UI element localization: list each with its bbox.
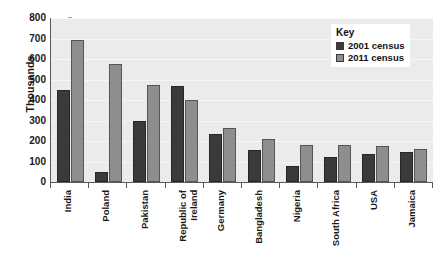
bar[interactable] xyxy=(362,154,375,182)
legend-label: 2011 census xyxy=(348,52,404,63)
bar-group xyxy=(95,18,122,182)
bar[interactable] xyxy=(223,128,236,182)
x-tick-mark xyxy=(394,183,395,188)
x-tick-mark xyxy=(432,183,433,188)
legend-swatch-icon xyxy=(336,42,344,50)
x-tick-label: Bangladesh xyxy=(254,190,265,244)
legend-items: 2001 census2011 census xyxy=(336,40,405,63)
legend-item[interactable]: 2011 census xyxy=(336,52,405,63)
bar-group xyxy=(57,18,84,182)
x-tick-label: USA xyxy=(369,190,380,210)
legend-item[interactable]: 2001 census xyxy=(336,40,405,51)
x-tick-label: India xyxy=(63,190,74,212)
x-tick-mark xyxy=(50,183,51,188)
bar[interactable] xyxy=(300,145,313,182)
x-tick-label: Republic of Ireland xyxy=(178,190,199,242)
x-tick-label: South Africa xyxy=(331,190,342,246)
y-tick-label: 200 xyxy=(22,136,46,146)
y-tick-label: 100 xyxy=(22,157,46,167)
x-tick-mark xyxy=(88,183,89,188)
x-tick-mark xyxy=(126,183,127,188)
x-tick-mark xyxy=(241,183,242,188)
bar-chart: Thousands 0100200300400500600700800 Indi… xyxy=(0,0,446,265)
x-tick-mark xyxy=(317,183,318,188)
y-tick-label: 800 xyxy=(22,13,46,23)
y-tick-label: 0 xyxy=(22,177,46,187)
bar-group xyxy=(133,18,160,182)
x-tick-label: Jamaica xyxy=(407,190,418,228)
bar-group xyxy=(171,18,198,182)
bar[interactable] xyxy=(414,149,427,182)
y-tick-label: 600 xyxy=(22,54,46,64)
legend-title: Key xyxy=(336,27,405,38)
y-axis-tick-labels: 0100200300400500600700800 xyxy=(22,18,46,182)
bar[interactable] xyxy=(147,85,160,182)
x-tick-mark xyxy=(165,183,166,188)
x-axis-ticks xyxy=(50,183,432,189)
bar[interactable] xyxy=(185,100,198,182)
x-tick-mark xyxy=(203,183,204,188)
x-tick-label: Poland xyxy=(101,190,112,222)
bar[interactable] xyxy=(71,40,84,182)
x-axis-tick-labels: IndiaPolandPakistanRepublic of IrelandGe… xyxy=(50,190,432,265)
y-tick-label: 400 xyxy=(22,95,46,105)
bar[interactable] xyxy=(262,139,275,182)
bar[interactable] xyxy=(338,145,351,182)
bar[interactable] xyxy=(109,64,122,182)
bar[interactable] xyxy=(376,146,389,182)
x-tick-mark xyxy=(356,183,357,188)
x-tick-mark xyxy=(279,183,280,188)
x-tick-label: Germany xyxy=(216,190,227,231)
bar[interactable] xyxy=(286,166,299,182)
bar[interactable] xyxy=(171,86,184,182)
x-tick-label: Nigeria xyxy=(292,190,303,222)
bar[interactable] xyxy=(324,157,337,182)
bar-group xyxy=(209,18,236,182)
legend-swatch-icon xyxy=(336,54,344,62)
bar-group xyxy=(286,18,313,182)
bar[interactable] xyxy=(209,134,222,182)
legend: Key 2001 census2011 census xyxy=(331,24,410,67)
y-tick-label: 300 xyxy=(22,116,46,126)
y-tick-label: 700 xyxy=(22,34,46,44)
bar-group xyxy=(248,18,275,182)
bar[interactable] xyxy=(400,152,413,182)
legend-label: 2001 census xyxy=(348,40,405,51)
bar[interactable] xyxy=(133,121,146,183)
bar[interactable] xyxy=(95,172,108,182)
x-tick-label: Pakistan xyxy=(140,190,151,229)
y-tick-label: 500 xyxy=(22,75,46,85)
bar[interactable] xyxy=(57,90,70,182)
bar[interactable] xyxy=(248,150,261,182)
